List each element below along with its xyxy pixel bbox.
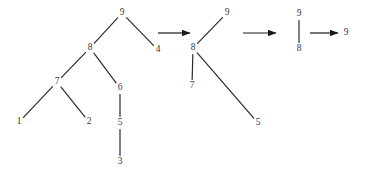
- tree-node-9: 9: [297, 9, 302, 19]
- tree-edge: [23, 87, 52, 118]
- tree-node-5: 5: [256, 118, 261, 128]
- tree-edge: [198, 18, 223, 44]
- tree-edge: [197, 53, 253, 118]
- tree-edge: [94, 53, 116, 83]
- tree-node-5: 5: [118, 118, 123, 128]
- tree-edge: [94, 18, 117, 43]
- tree-edge: [62, 53, 86, 78]
- tree-transformation-figure: 9847612539875989: [0, 0, 367, 170]
- tree-node-9: 9: [344, 28, 349, 38]
- tree-edges-layer: [23, 18, 299, 156]
- tree-node-7: 7: [190, 81, 195, 91]
- tree-node-8: 8: [191, 43, 196, 53]
- tree-node-1: 1: [17, 117, 22, 127]
- tree-edge: [61, 87, 85, 117]
- tree-node-9: 9: [120, 8, 125, 18]
- tree-node-8: 8: [297, 44, 302, 54]
- tree-node-2: 2: [87, 117, 92, 127]
- tree-edge: [192, 55, 193, 80]
- tree-node-8: 8: [88, 43, 93, 53]
- tree-node-3: 3: [118, 157, 123, 167]
- tree-edge: [127, 18, 154, 46]
- tree-node-4: 4: [156, 45, 161, 55]
- tree-node-9: 9: [225, 8, 230, 18]
- tree-node-6: 6: [118, 83, 123, 93]
- tree-node-7: 7: [55, 77, 60, 87]
